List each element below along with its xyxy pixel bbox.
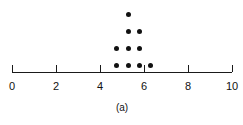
x-axis-tick-label: 2: [44, 80, 68, 92]
x-axis-tick-label: 10: [220, 80, 243, 92]
data-point-dot: [114, 63, 119, 68]
data-point-dot: [114, 46, 119, 51]
panel-label: (a): [102, 102, 142, 114]
x-axis-tick-label: 4: [88, 80, 112, 92]
x-axis-tick: [12, 65, 13, 72]
dotplot-canvas: 0246810(a): [0, 0, 243, 125]
data-point-dot: [137, 46, 142, 51]
x-axis-tick: [232, 65, 233, 72]
data-point-dot: [126, 12, 131, 17]
x-axis-tick: [144, 65, 145, 72]
x-axis-tick: [188, 65, 189, 72]
x-axis-tick: [100, 65, 101, 72]
data-point-dot: [148, 63, 153, 68]
data-point-dot: [126, 29, 131, 34]
data-point-dot: [126, 63, 131, 68]
data-point-dot: [126, 46, 131, 51]
x-axis-tick: [56, 65, 57, 72]
x-axis-tick-label: 0: [0, 80, 24, 92]
data-point-dot: [137, 63, 142, 68]
data-point-dot: [137, 29, 142, 34]
x-axis-tick-label: 8: [176, 80, 200, 92]
x-axis-tick-label: 6: [132, 80, 156, 92]
dotplot-figure: 0246810(a): [0, 0, 243, 125]
x-axis-line: [12, 72, 232, 73]
